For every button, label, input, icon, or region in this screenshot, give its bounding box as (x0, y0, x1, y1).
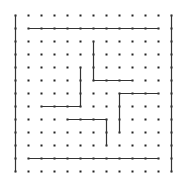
grid-dot (41, 80, 43, 82)
grid-dot (158, 119, 160, 121)
grid-dot (67, 132, 69, 134)
grid-dot (28, 119, 30, 121)
grid-dot (145, 41, 147, 43)
grid-dot (132, 54, 134, 56)
grid-dot (80, 132, 82, 134)
grid-dot (28, 145, 30, 147)
grid-dot (93, 106, 95, 108)
grid-dot (132, 15, 134, 17)
grid-dot (93, 93, 95, 95)
grid-dot (145, 132, 147, 134)
grid-dot (80, 171, 82, 173)
grid-dot (28, 41, 30, 43)
grid-dot (119, 171, 121, 173)
grid-dot (67, 171, 69, 173)
grid-dot (145, 171, 147, 173)
grid-dot (54, 145, 56, 147)
grid-dot (158, 132, 160, 134)
grid-dot (158, 41, 160, 43)
grid-dot (41, 41, 43, 43)
grid-dot (132, 171, 134, 173)
grid-dot (54, 171, 56, 173)
grid-dot (28, 93, 30, 95)
grid-dot (54, 119, 56, 121)
grid-dot (54, 15, 56, 17)
grid-dot (67, 54, 69, 56)
grid-dot (41, 119, 43, 121)
grid-dot (132, 132, 134, 134)
grid-dot (119, 41, 121, 43)
grid-dot (54, 54, 56, 56)
grid-dot (106, 93, 108, 95)
grid-dot (158, 54, 160, 56)
grid-dot (132, 41, 134, 43)
grid-dot (80, 41, 82, 43)
grid-dot (41, 132, 43, 134)
grid-dot (41, 171, 43, 173)
grid-dot (54, 67, 56, 69)
grid-dot (132, 145, 134, 147)
grid-dot (106, 54, 108, 56)
grid-dot (80, 145, 82, 147)
grid-dot (41, 15, 43, 17)
grid-dot (106, 15, 108, 17)
grid-dot (132, 106, 134, 108)
grid-dot (67, 145, 69, 147)
maze-board (0, 0, 182, 187)
grid-dot (67, 15, 69, 17)
grid-dot (132, 119, 134, 121)
grid-dot (54, 93, 56, 95)
grid-dot (28, 15, 30, 17)
grid-dot (145, 54, 147, 56)
grid-dot (119, 15, 121, 17)
grid-dot (119, 67, 121, 69)
grid-dot (93, 15, 95, 17)
grid-dot (106, 41, 108, 43)
grid-dot (145, 67, 147, 69)
grid-dot (119, 54, 121, 56)
grid-dot (28, 106, 30, 108)
grid-dot (41, 67, 43, 69)
grid-dot (106, 67, 108, 69)
grid-dot (28, 54, 30, 56)
grid-dot (145, 119, 147, 121)
grid-dot (41, 54, 43, 56)
grid-dot (145, 80, 147, 82)
grid-dot (67, 41, 69, 43)
grid-dot (93, 171, 95, 173)
grid-dot (158, 15, 160, 17)
grid-dot (119, 145, 121, 147)
grid-dot (80, 54, 82, 56)
grid-dot (106, 106, 108, 108)
grid-dot (41, 93, 43, 95)
grid-dot (67, 80, 69, 82)
grid-dot (28, 67, 30, 69)
grid-dot (158, 145, 160, 147)
grid-dot (41, 145, 43, 147)
grid-dot (28, 171, 30, 173)
grid-dot (54, 80, 56, 82)
grid-dot (132, 67, 134, 69)
grid-dot (54, 132, 56, 134)
grid-dot (158, 80, 160, 82)
grid-dot (145, 106, 147, 108)
grid-dot (80, 15, 82, 17)
grid-dot (145, 15, 147, 17)
grid-dot (67, 67, 69, 69)
grid-dot (158, 171, 160, 173)
grid-dot (158, 106, 160, 108)
grid-dot (93, 132, 95, 134)
grid-dot (93, 145, 95, 147)
grid-dot (54, 41, 56, 43)
grid-dot (106, 171, 108, 173)
grid-dot (67, 93, 69, 95)
grid-dot (158, 67, 160, 69)
grid-dot (145, 145, 147, 147)
grid-dot (28, 80, 30, 82)
grid-dot (28, 132, 30, 134)
